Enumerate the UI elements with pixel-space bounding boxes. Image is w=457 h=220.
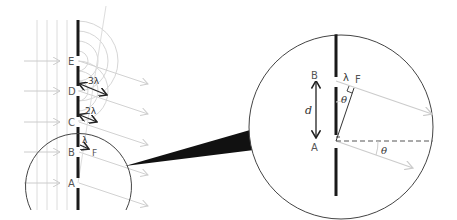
label-3-lambda: 3λ (88, 76, 100, 86)
slit-label-d: D (68, 86, 76, 97)
label-2-lambda: 2λ (85, 106, 97, 116)
label-lambda: λ (82, 135, 88, 145)
plane-wavefronts (37, 20, 67, 210)
diffraction-diagram: E D C B A 3λ 2λ λ F (0, 0, 457, 220)
slit-label-b: B (68, 147, 75, 158)
zoom-connector-wedge (125, 128, 262, 166)
label-point-f: F (92, 148, 97, 158)
incident-arrows (24, 61, 60, 183)
slit-labels: E D C B A (68, 56, 76, 189)
zoom-label-lambda: λ (343, 72, 349, 83)
zoom-label-b: B (311, 70, 318, 81)
zoom-label-f: F (355, 74, 361, 85)
slit-label-a: A (68, 178, 75, 189)
zoom-label-theta-outer: θ (381, 145, 387, 156)
slit-label-e: E (68, 56, 74, 67)
zoom-label-theta-inner: θ (341, 94, 347, 105)
zoom-label-d: d (305, 104, 312, 117)
slit-label-c: C (68, 117, 75, 128)
zoom-label-a: A (311, 142, 318, 153)
